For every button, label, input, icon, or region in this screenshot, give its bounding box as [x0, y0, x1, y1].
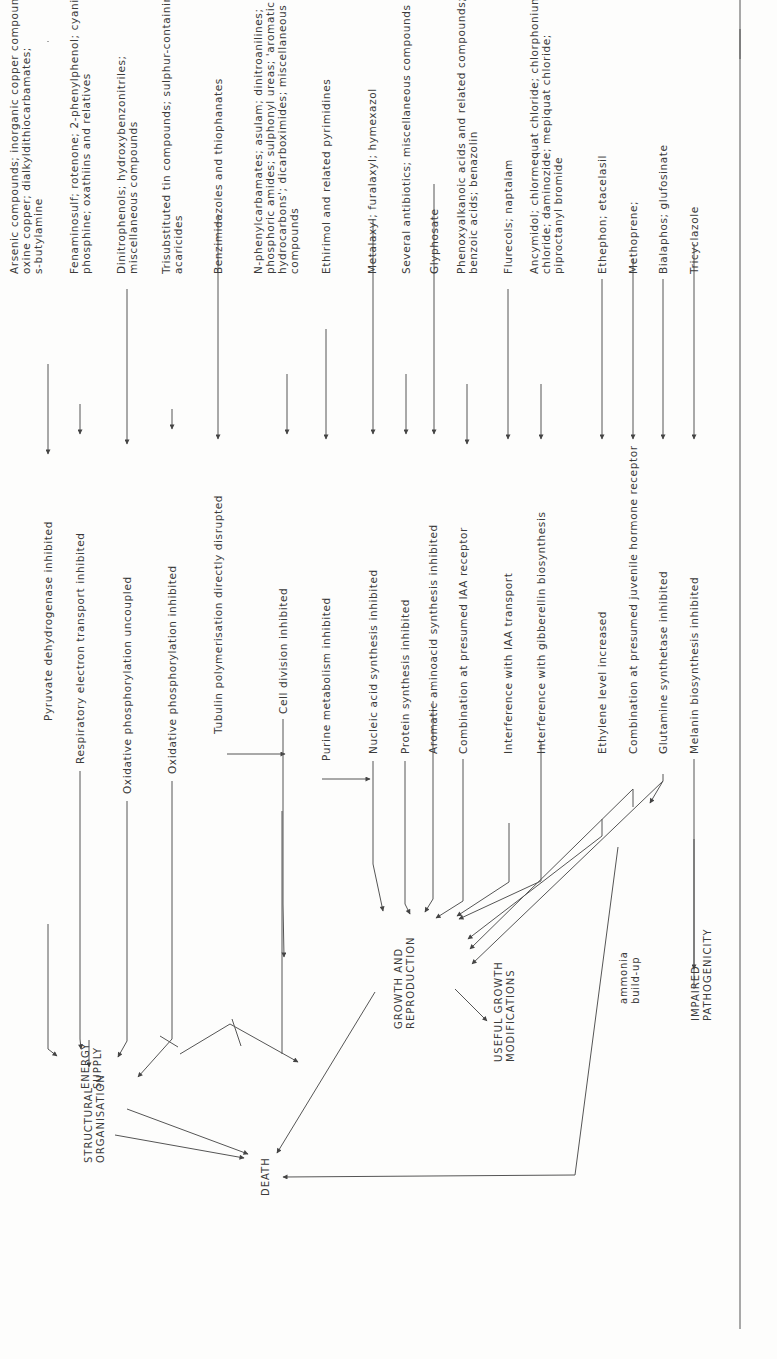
compound-label: Tricyclazole: [688, 206, 700, 274]
arrow-uncoupled-energy: [118, 801, 127, 1057]
mechanism-label: Combination at presumed IAA receptor: [457, 527, 469, 754]
arrow-nucleic-growth: [373, 761, 383, 911]
compound-label: Bialaphos; glufosinate: [657, 144, 669, 274]
arrow-pyruvate-energy: [48, 924, 57, 1056]
arrow-juvenile-growth: [470, 789, 633, 949]
arrow-protein-growth: [405, 761, 410, 914]
mode-of-action-diagram: Arsenic compounds; inorganic copper comp…: [0, 0, 777, 1359]
mechanism-label: Glutamine synthetase inhibited: [657, 571, 669, 754]
arrow-glutamine-growth: [472, 774, 663, 964]
mechanism-label: Protein synthesis inhibited: [399, 599, 411, 754]
mechanism-label: Nucleic acid synthesis inhibited: [367, 569, 379, 754]
compound-label: Flurecols; naptalam: [502, 159, 514, 274]
arrow-structural-death: [115, 1135, 244, 1158]
node-impaired-pathogenicity: IMPAIRED PATHOGENICITY: [690, 928, 714, 1021]
compound-label: Trisubstituted tin compounds; sulphur-co…: [160, 0, 184, 274]
mechanism-label: Interference with gibberellin biosynthes…: [535, 512, 547, 755]
node-ammonia-build-up: ammonia build-up: [618, 951, 642, 1004]
compound-label: Dinitrophenols; hydroxybenzonitriles; mi…: [115, 55, 139, 274]
compound-label: Several antibiotics; miscellaneous compo…: [400, 4, 412, 274]
mechanism-label: Aromatic aminoacid synthesis inhibited: [427, 524, 439, 754]
arrow-cell-division-growth: [283, 719, 284, 957]
mechanism-label: Cell division inhibited: [277, 588, 289, 714]
compound-label: Fenaminosulf; rotenone; 2-phenylphenol; …: [68, 0, 92, 274]
arrow-oxphos-energy: [138, 781, 172, 1077]
compound-label: N-phenylcarbamates; asulam; dinitroanili…: [252, 1, 300, 274]
arrow-growth-useful: [455, 989, 487, 1021]
node-structural-organisation: STRUCTURAL ORGANISATION: [83, 1074, 107, 1163]
mechanism-label: Purine metabolism inhibited: [320, 597, 332, 761]
mechanism-label: Oxidative phosphorylation inhibited: [166, 565, 178, 774]
compound-label: Glyphosate: [428, 209, 440, 275]
mechanism-label: Respiratory electron transport inhibited: [74, 532, 86, 764]
node-growth-and-reproduction: GROWTH AND REPRODUCTION: [393, 936, 417, 1029]
mechanism-label: Pyruvate dehydrogenase inhibited: [42, 521, 54, 721]
arrow-iaa-receptor-growth: [436, 759, 463, 918]
mechanism-label: Melanin biosynthesis inhibited: [688, 577, 700, 754]
compound-label: Ethephon; etacelasil: [596, 155, 608, 274]
compound-label: Arsenic compounds; inorganic copper comp…: [8, 0, 44, 274]
mechanism-label: Interference with IAA transport: [502, 573, 514, 754]
mechanism-label: Tubulin polymerisation directly disrupte…: [212, 495, 224, 734]
mechanism-label: Combination at presumed juvenile hormone…: [627, 445, 639, 754]
compound-label: Ancymidol; chlormequat chloride; chlorph…: [528, 0, 564, 274]
node-useful-growth-modifications: USEFUL GROWTH MODIFICATIONS: [493, 961, 517, 1062]
mechanism-label: Ethylene level increased: [596, 611, 608, 754]
arrow-energy-death: [127, 1109, 248, 1154]
mechanism-label: Oxidative phosphorylation uncoupled: [121, 576, 133, 794]
arrow-iaa-transport-growth: [457, 823, 509, 916]
node-death: DEATH: [260, 1157, 272, 1196]
compound-label: Methoprene;: [627, 201, 639, 274]
arrow-ammonia-death: [283, 847, 618, 1177]
arrow-respiratory-energy: [80, 771, 81, 1049]
compound-label: Phenoxyalkanoic acids and related compou…: [455, 0, 479, 274]
compound-label: Ethirimol and related pyrimidines: [320, 79, 332, 274]
arrow-growth-death: [277, 992, 375, 1153]
arrow-ethylene-growth: [468, 819, 602, 939]
compound-label: Benzimidazoles and thiophanates: [212, 78, 224, 274]
line-energy-growth-a: [180, 1024, 230, 1054]
compound-label: Metalaxyl; furalaxyl; hymexazol: [366, 88, 378, 274]
